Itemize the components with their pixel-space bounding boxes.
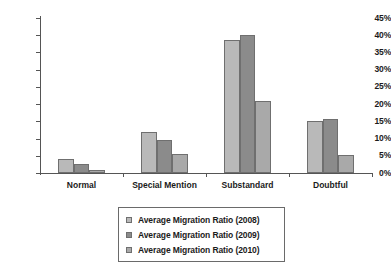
legend-label: Average Migration Ratio (2008) [138,215,259,225]
y-axis-tick [36,173,40,174]
x-axis-tick [372,173,373,177]
bar-substandard-series-1 [224,40,239,173]
legend-label: Average Migration Ratio (2010) [138,245,259,255]
category-label-doubtful: Doubtful [271,180,391,190]
bar-chart: 0%5%10%15%20%25%30%35%40%45% NormalSpeci… [0,0,391,268]
x-axis-tick [206,173,207,177]
bar-substandard-series-3 [255,101,270,173]
plot-area [40,18,372,173]
bar-doubtful-series-2 [323,119,338,173]
legend-label: Average Migration Ratio (2009) [138,230,259,240]
chart-legend: Average Migration Ratio (2008)Average Mi… [118,207,285,262]
bar-doubtful-series-3 [338,155,353,173]
bar-special-mention-series-2 [157,140,172,173]
legend-item-3: Average Migration Ratio (2010) [126,242,284,257]
x-axis-tick [123,173,124,177]
bar-substandard-series-2 [240,35,255,173]
legend-item-1: Average Migration Ratio (2008) [126,212,284,227]
legend-item-2: Average Migration Ratio (2009) [126,227,284,242]
bar-normal-series-2 [74,164,89,173]
bar-special-mention-series-1 [141,132,156,173]
legend-swatch-icon [126,247,132,253]
bar-normal-series-1 [58,159,73,173]
x-axis-tick [289,173,290,177]
bar-doubtful-series-1 [307,121,322,173]
legend-swatch-icon [126,217,132,223]
legend-swatch-icon [126,232,132,238]
bar-normal-series-3 [89,170,104,173]
bar-special-mention-series-3 [172,154,187,173]
